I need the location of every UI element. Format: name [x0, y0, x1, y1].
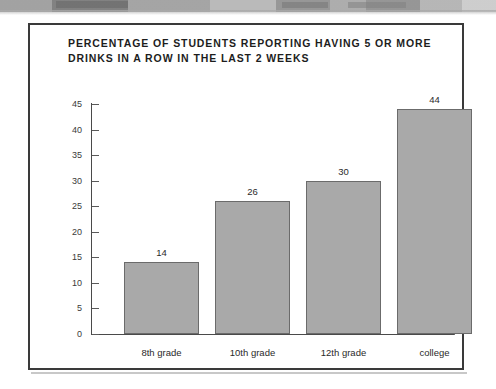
- bar-group: 3012th grade: [306, 181, 381, 334]
- bar-value-label: 26: [215, 186, 290, 197]
- y-axis-tick-mark: [92, 232, 99, 233]
- y-axis-tick-mark: [92, 181, 99, 182]
- bar-value-label: 30: [306, 166, 381, 177]
- bar[interactable]: [124, 262, 199, 334]
- x-axis-line: [91, 334, 455, 335]
- figure-frame-shadow: [31, 372, 467, 374]
- chart-title: PERCENTAGE OF STUDENTS REPORTING HAVING …: [68, 36, 450, 66]
- y-axis-tick-mark: [92, 206, 99, 207]
- x-axis-category-label: college: [375, 347, 495, 358]
- bar-group: 148th grade: [124, 262, 199, 334]
- y-axis-tick-mark: [92, 104, 99, 105]
- bar-group: 44college: [397, 109, 472, 334]
- y-axis-tick-label: 5: [77, 303, 82, 313]
- y-axis-tick-mark: [92, 155, 99, 156]
- bar[interactable]: [397, 109, 472, 334]
- bar-value-label: 44: [397, 94, 472, 105]
- y-axis-tick-label: 45: [72, 99, 82, 109]
- y-axis-tick-mark: [92, 334, 99, 335]
- y-axis-tick-label: 20: [72, 227, 82, 237]
- scan-artifact-smudge: [56, 1, 128, 8]
- y-axis-tick-label: 40: [72, 125, 82, 135]
- y-axis-tick-label: 0: [77, 329, 82, 339]
- y-axis-line: [91, 103, 92, 335]
- plot-area: 454035302520151050 148th grade2610th gra…: [91, 104, 455, 334]
- figure-frame: PERCENTAGE OF STUDENTS REPORTING HAVING …: [28, 23, 464, 370]
- y-axis-tick-label: 30: [72, 176, 82, 186]
- bar[interactable]: [215, 201, 290, 334]
- y-axis-tick-mark: [92, 283, 99, 284]
- bar[interactable]: [306, 181, 381, 334]
- y-axis-tick-label: 15: [72, 252, 82, 262]
- scan-artifact-fade: [0, 10, 496, 15]
- y-axis-tick-label: 25: [72, 201, 82, 211]
- y-axis-tick-mark: [92, 257, 99, 258]
- y-axis-tick-label: 35: [72, 150, 82, 160]
- y-axis-tick-mark: [92, 130, 99, 131]
- y-axis-tick-label: 10: [72, 278, 82, 288]
- bar-group: 2610th grade: [215, 201, 290, 334]
- scan-artifact-smudge: [348, 2, 406, 8]
- scan-artifact-smudge: [282, 2, 328, 8]
- y-axis-tick-mark: [92, 308, 99, 309]
- bar-value-label: 14: [124, 247, 199, 258]
